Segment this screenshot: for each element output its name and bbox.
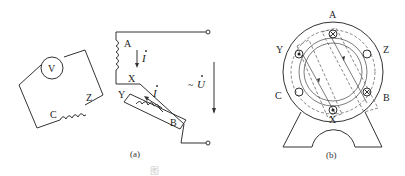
label-b: B [170,117,177,128]
wire-b-bottom [181,124,206,143]
base-right-leg [355,112,382,147]
panel-b: A Y Z C B X (b) [275,9,390,160]
base-left-leg [283,112,312,147]
label-b-z: Z [383,44,389,55]
motor-winding-diagram: V C Z A X I Y B [0,0,405,176]
caption-b: (b) [326,150,337,160]
coil-y-b [136,102,163,113]
stator-inner-circle [299,38,367,106]
label-y: Y [118,89,125,100]
current-arrowhead-1 [135,63,139,68]
voltage-arrowhead [212,108,216,114]
supply-terminal-top [206,30,210,34]
field-line-a [330,35,367,103]
voltage-label: U [197,78,206,90]
ac-symbol: ~ [188,79,194,90]
wire-x-to-y [116,70,184,124]
slot-x-dot [329,106,337,114]
label-x: X [128,73,136,84]
phasor-dot-2 [156,85,158,87]
label-b-c: C [275,90,282,101]
label-b-y: Y [276,44,283,55]
figure-caption-fragment: 图 [150,166,159,176]
coil-a-x [116,40,119,70]
voltmeter-label: V [48,63,56,74]
caption-a: (a) [130,149,140,159]
current-label-1: I [141,52,147,64]
ax-coil-circuit: A X I [116,30,210,124]
base-arch [312,130,355,147]
field-line-y [303,55,335,113]
supply-voltage: ~ U [188,62,216,114]
panel-a: V C Z A X I Y B [19,30,216,159]
coil-c-z [60,114,86,120]
yb-coil-circuit: Y B I [118,85,210,145]
supply-terminal-bottom [206,141,210,145]
stator-outer-circle [283,22,383,122]
phasor-dot-1 [145,50,147,52]
label-z: Z [86,92,92,103]
cz-voltmeter-circuit: V C Z [19,50,103,128]
circuit-wire-right [64,50,103,105]
phasor-dot-u [201,75,203,77]
current-arrowhead-2 [144,96,149,101]
slot-z-empty [363,50,371,58]
current-label-2: I [152,87,158,99]
label-c: C [50,109,57,120]
coil-box-yb [124,94,186,129]
slot-a-cross [329,30,337,38]
label-a: A [124,38,132,49]
label-b-b: B [383,92,390,103]
label-b-x: X [329,114,337,125]
label-b-a: A [329,9,337,20]
coil-box-ab [322,28,378,112]
